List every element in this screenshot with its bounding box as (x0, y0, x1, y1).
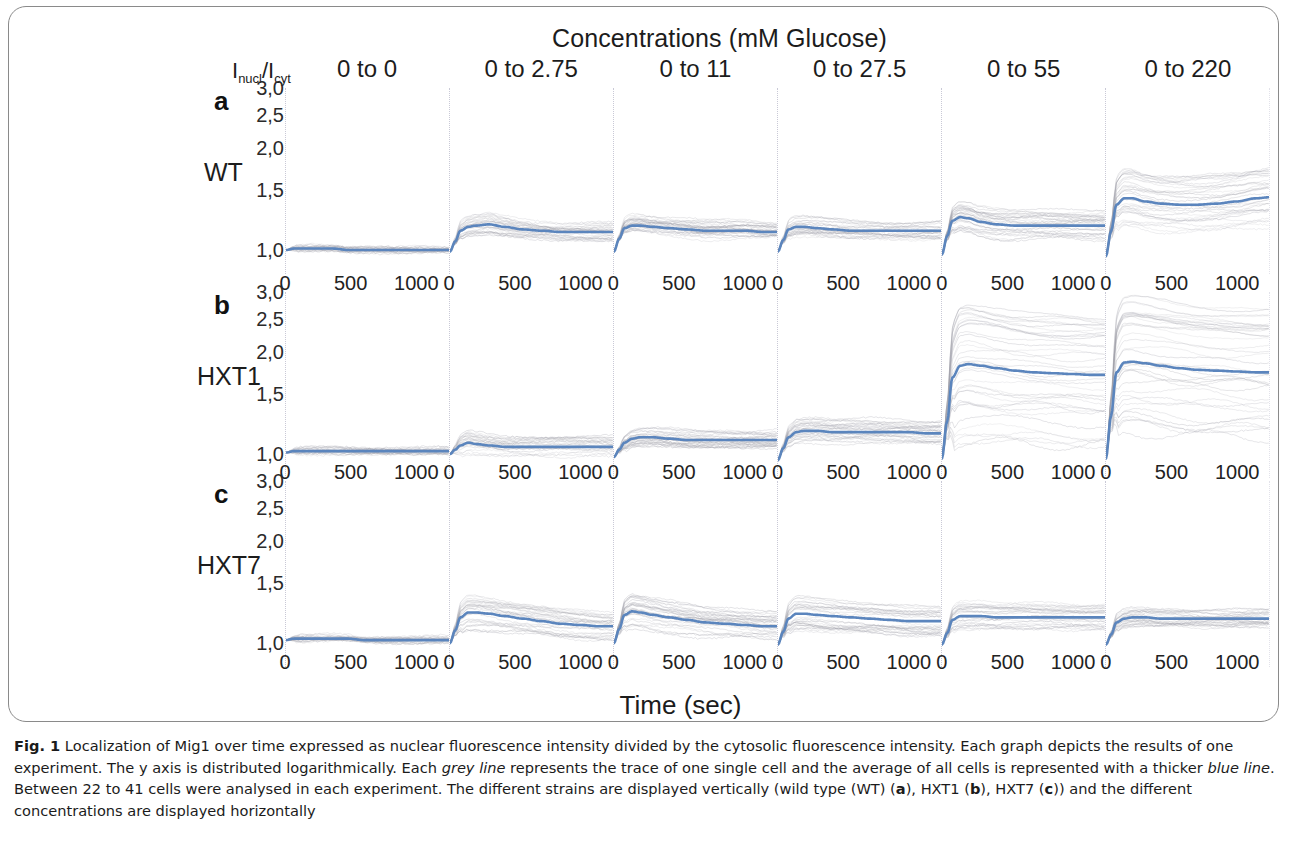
cell-trace (1106, 362, 1269, 459)
chart-panel-a-1 (449, 88, 613, 274)
cell-trace (778, 232, 941, 251)
cell-trace (942, 305, 1105, 458)
cell-trace (778, 621, 941, 644)
chart-panel-c-1 (449, 481, 613, 667)
plot-strip-b (285, 292, 1270, 478)
x-tick-1000: 1000 (394, 651, 439, 674)
cell-trace (1106, 176, 1269, 256)
cell-trace (1106, 206, 1269, 256)
cell-trace (942, 624, 1105, 645)
chart-panel-b-4 (941, 292, 1105, 478)
cell-trace (1106, 369, 1269, 459)
cell-trace (1106, 218, 1269, 256)
cell-trace (942, 206, 1105, 255)
chart-panel-b-2 (613, 292, 777, 478)
cell-trace (1106, 347, 1269, 459)
x-tick-0: 0 (1100, 651, 1111, 674)
chart-panel-a-2 (613, 88, 777, 274)
cell-traces (942, 305, 1105, 458)
x-tick-0: 0 (279, 651, 290, 674)
chart-panel-c-4 (941, 481, 1105, 667)
cell-trace (778, 436, 941, 460)
cell-trace (942, 427, 1105, 458)
cell-traces (778, 215, 941, 252)
cell-trace (942, 350, 1105, 458)
average-line (286, 639, 449, 640)
column-header-2: 0 to 11 (613, 55, 777, 85)
x-tick-500: 500 (991, 651, 1024, 674)
cell-traces (942, 600, 1105, 644)
cell-trace (942, 230, 1105, 254)
caption-line5: ), HXT7 ( (980, 780, 1044, 797)
y-axis-c: 1,01,52,02,53,0 (238, 481, 284, 667)
cell-trace (1106, 316, 1269, 459)
x-tick-500: 500 (1155, 651, 1188, 674)
x-tick-1000: 1000 (558, 651, 603, 674)
x-tick-1000: 1000 (722, 651, 767, 674)
cell-trace (1106, 185, 1269, 256)
average-line (286, 249, 449, 250)
cell-trace (1106, 210, 1269, 256)
plot-strip-c (285, 481, 1270, 667)
caption-blue-line: blue line (1207, 759, 1270, 776)
panel-row-c: c HXT7 1,01,52,02,53,0 (0, 481, 1289, 667)
y-tick-2-5: 2,5 (256, 103, 284, 126)
cell-trace (1106, 408, 1269, 458)
y-axis-b: 1,01,52,02,53,0 (238, 292, 284, 478)
cell-trace (942, 361, 1105, 458)
cell-trace (942, 319, 1105, 458)
panel-letter-a: a (214, 86, 228, 117)
average-line (1106, 362, 1269, 459)
x-axis-cell: 05001000 (778, 651, 942, 677)
cell-trace (1106, 312, 1269, 458)
y-tick-3-0: 3,0 (256, 470, 284, 493)
cell-traces (1106, 295, 1269, 458)
chart-panel-a-0 (285, 88, 449, 274)
y-axis-a: 1,01,52,02,53,0 (238, 88, 284, 274)
cell-trace (942, 390, 1105, 458)
x-tick-500: 500 (662, 651, 695, 674)
cell-trace (450, 216, 613, 252)
cell-trace (1106, 416, 1269, 458)
y-tick-1-5: 1,5 (256, 179, 284, 202)
cell-trace (942, 624, 1105, 645)
cell-trace (450, 453, 613, 459)
cell-trace (942, 403, 1105, 458)
cell-trace (1106, 210, 1269, 256)
panel-letter-b: b (214, 290, 230, 321)
cell-trace (1106, 198, 1269, 256)
caption-line4: ), HXT1 ( (906, 780, 970, 797)
cell-trace (942, 390, 1105, 458)
cell-trace (942, 402, 1105, 459)
x-tick-0: 0 (608, 651, 619, 674)
cell-trace (778, 419, 941, 461)
cell-trace (1106, 323, 1269, 458)
x-tick-1000: 1000 (1215, 651, 1260, 674)
cell-trace (942, 415, 1105, 459)
y-tick-2-0: 2,0 (256, 529, 284, 552)
cell-trace (778, 233, 941, 252)
average-line (942, 364, 1105, 458)
cell-trace (942, 317, 1105, 458)
cell-trace (942, 401, 1105, 459)
cell-traces (1106, 606, 1269, 644)
cell-trace (778, 232, 941, 251)
cell-trace (778, 621, 941, 644)
chart-panel-c-3 (777, 481, 941, 667)
cell-trace (1106, 316, 1269, 459)
chart-panel-a-3 (777, 88, 941, 274)
cell-trace (450, 613, 613, 643)
cell-trace (1106, 211, 1269, 257)
panel-row-b: b HXT1 1,01,52,02,53,0 (0, 292, 1289, 478)
column-header-3: 0 to 27.5 (778, 55, 942, 85)
caption-bold-a: a (896, 780, 906, 797)
cell-trace (1106, 369, 1269, 459)
cell-trace (778, 232, 941, 251)
cell-trace (1106, 221, 1269, 256)
chart-panel-b-5 (1105, 292, 1270, 478)
x-tick-0: 0 (772, 651, 783, 674)
cell-traces (1106, 168, 1269, 257)
cell-trace (778, 441, 941, 460)
plot-strip-a (285, 88, 1270, 274)
x-axis-cell: 05001000 (449, 651, 613, 677)
